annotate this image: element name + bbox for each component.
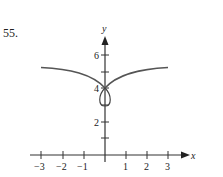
svg-text:−2: −2 <box>56 161 67 172</box>
svg-text:3: 3 <box>165 161 170 172</box>
x-tick-labels: −3 −2 −1 1 2 3 <box>34 161 170 172</box>
svg-text:2: 2 <box>94 117 99 128</box>
svg-text:−3: −3 <box>34 161 45 172</box>
x-axis-label: x <box>190 150 196 161</box>
graph: x y −3 −2 −1 1 2 3 2 4 6 <box>0 0 223 177</box>
y-axis-label: y <box>101 23 107 34</box>
svg-text:4: 4 <box>94 83 99 94</box>
svg-text:2: 2 <box>144 161 149 172</box>
x-axis-arrow-icon <box>181 152 190 159</box>
svg-text:1: 1 <box>123 161 128 172</box>
svg-text:6: 6 <box>94 50 99 61</box>
y-tick-labels: 2 4 6 <box>94 50 99 128</box>
svg-text:−1: −1 <box>77 161 88 172</box>
y-axis-arrow-icon <box>102 36 109 45</box>
